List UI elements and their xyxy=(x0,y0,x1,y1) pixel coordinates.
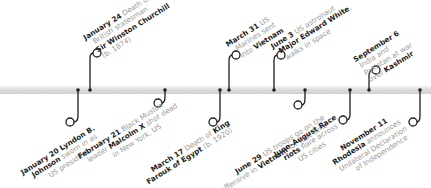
event-marker-junaug xyxy=(339,88,352,124)
event-ring xyxy=(66,118,74,126)
event-marker-jun29 xyxy=(294,88,307,109)
axis-dot xyxy=(303,88,307,92)
event-ring xyxy=(294,101,302,109)
axis-dot xyxy=(272,88,276,92)
axis-dot xyxy=(218,88,222,92)
connector-line xyxy=(417,90,421,122)
axis-dot xyxy=(367,88,371,92)
axis-dot xyxy=(163,88,167,92)
event-marker-jan20 xyxy=(66,88,80,126)
axis-dot xyxy=(348,88,352,92)
timeline-1965: January 20 Lyndon B. Johnson sworn in as… xyxy=(0,0,431,188)
event-ring xyxy=(409,118,417,126)
connector-line xyxy=(74,90,79,122)
event-ring xyxy=(339,116,347,124)
axis-dot xyxy=(227,88,231,92)
axis-dot xyxy=(418,88,422,92)
connector-line xyxy=(217,90,221,122)
event-marker-nov11 xyxy=(409,88,422,126)
connector-line xyxy=(229,55,233,90)
event-marker-mar17 xyxy=(209,88,222,126)
axis-dot xyxy=(88,88,92,92)
connector-line xyxy=(90,53,94,90)
connector-line xyxy=(274,55,278,90)
connector-line xyxy=(347,90,351,120)
axis-dot xyxy=(76,88,80,92)
